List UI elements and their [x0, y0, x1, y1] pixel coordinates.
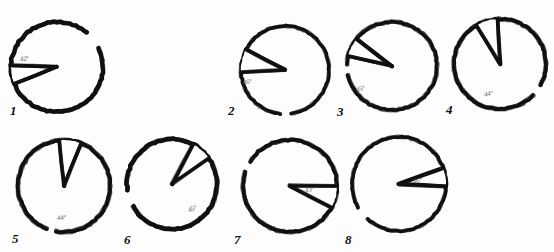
circle-outline-arc — [352, 136, 447, 231]
figure-index-label-8: 8 — [345, 233, 352, 246]
worksheet-canvas: 42°146°245°344°444°545°643°746°8 — [0, 0, 554, 252]
circle-outline-arc — [352, 136, 446, 231]
degree-symbol-icon: ° — [419, 176, 423, 184]
circle-diagram-8 — [0, 0, 554, 252]
sector-ray-b — [399, 184, 445, 186]
sector-ray-b — [399, 184, 446, 186]
angle-measure-label: 46° — [412, 177, 422, 185]
figure-8: 46°8 — [0, 0, 554, 252]
sector-ray-b — [399, 184, 446, 186]
circle-outline-arc — [352, 137, 446, 232]
